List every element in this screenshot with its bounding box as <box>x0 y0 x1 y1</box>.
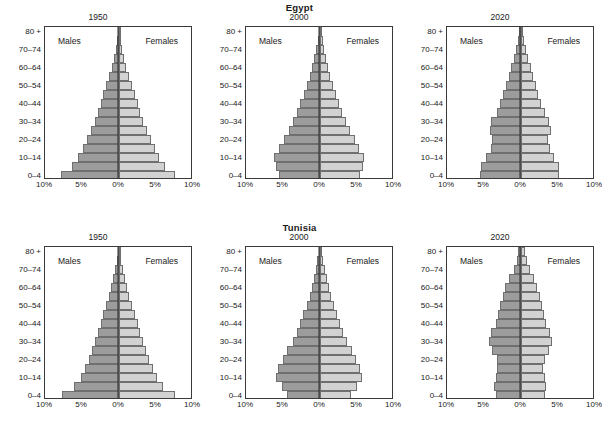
bar-male <box>300 99 320 108</box>
bar-male <box>491 328 521 337</box>
x-axis-tick-label: 10% <box>184 180 200 189</box>
bar-male <box>98 328 119 337</box>
pyramid-panel-egypt-2000: 20000–410–1420–2430–3440–4450–5460–6470–… <box>201 12 397 220</box>
bar-male <box>287 391 320 399</box>
bar-female <box>119 256 121 265</box>
y-axis-tick-label: 10–14 <box>220 152 242 161</box>
bar-female <box>119 72 129 81</box>
bar-female <box>521 274 534 283</box>
bar-male <box>293 337 320 346</box>
bar-female <box>521 99 541 108</box>
pyramid-panel-tunisia-2020: 20200–410–1420–2430–3440–4450–5460–6470–… <box>402 232 598 440</box>
bar-female <box>320 27 322 36</box>
x-axis-tick-label: 10% <box>586 180 602 189</box>
bar-female <box>119 310 135 319</box>
bar-female <box>320 81 333 90</box>
x-axis-tick-label: 5% <box>276 400 288 409</box>
bar-male <box>101 319 120 328</box>
y-axis: 0–410–1420–2430–3440–4450–5460–6470–7480… <box>0 246 41 399</box>
legend-label-females: Females <box>145 36 178 46</box>
bar-male <box>276 373 320 382</box>
bar-male <box>83 144 119 153</box>
bar-male <box>293 117 320 126</box>
bar-female <box>320 337 347 346</box>
y-axis-tick-label: 60–64 <box>421 282 443 291</box>
bar-female <box>119 283 127 292</box>
bar-male <box>279 144 320 153</box>
bar-female <box>119 81 132 90</box>
bar-female <box>119 153 159 162</box>
bar-female <box>119 382 163 391</box>
bar-male <box>101 99 120 108</box>
bar-female <box>320 117 346 126</box>
bar-female <box>119 117 143 126</box>
bar-male <box>61 171 119 179</box>
y-axis-tick-label: 40–44 <box>220 98 242 107</box>
x-axis: 10%5%0%5%10% <box>245 180 393 194</box>
y-axis-tick-label: 60–64 <box>220 62 242 71</box>
y-axis: 0–410–1420–2430–3440–4450–5460–6470–7480… <box>201 26 242 179</box>
y-axis-tick-label: 70–74 <box>19 264 41 273</box>
x-axis-tick-label: 0% <box>112 180 124 189</box>
bar-male <box>503 90 521 99</box>
y-axis-tick-label: 80 + <box>25 246 41 255</box>
bar-female <box>320 382 357 391</box>
panels-row: 19500–410–1420–2430–3440–4450–5460–6470–… <box>0 232 599 440</box>
center-axis-line <box>520 247 521 398</box>
x-axis-tick-label: 5% <box>149 400 161 409</box>
bar-male <box>87 135 119 144</box>
y-axis-tick-label: 50–54 <box>220 80 242 89</box>
bar-male <box>92 346 119 355</box>
x-axis-tick-label: 10% <box>586 400 602 409</box>
bar-female <box>320 346 352 355</box>
center-axis-line <box>520 27 521 178</box>
bar-female <box>320 126 350 135</box>
bar-female <box>119 126 147 135</box>
x-axis: 10%5%0%5%10% <box>245 400 393 414</box>
bar-female <box>119 391 175 399</box>
bar-female <box>119 135 151 144</box>
legend-label-females: Females <box>547 256 580 266</box>
bar-female <box>521 373 545 382</box>
bar-female <box>119 144 155 153</box>
bar-female <box>119 337 143 346</box>
bar-male <box>274 153 320 162</box>
bar-male <box>89 355 119 364</box>
x-axis-tick-label: 5% <box>551 400 563 409</box>
x-axis-tick-label: 5% <box>149 180 161 189</box>
bar-female <box>320 153 364 162</box>
bar-female <box>119 27 121 36</box>
bar-male <box>287 346 320 355</box>
x-axis-tick-label: 10% <box>385 180 401 189</box>
y-axis-tick-label: 50–54 <box>421 300 443 309</box>
bar-female <box>521 162 559 171</box>
y-axis-tick-label: 30–34 <box>421 336 443 345</box>
y-axis-tick-label: 80 + <box>427 246 443 255</box>
bar-female <box>320 265 325 274</box>
y-axis-tick-label: 40–44 <box>421 98 443 107</box>
bar-male <box>85 364 119 373</box>
bar-male <box>282 382 320 391</box>
bar-female <box>320 72 330 81</box>
bar-female <box>320 292 331 301</box>
y-axis-tick-label: 60–64 <box>220 282 242 291</box>
x-axis-tick-label: 10% <box>385 400 401 409</box>
y-axis: 0–410–1420–2430–3440–4450–5460–6470–7480… <box>402 26 443 179</box>
bar-female <box>320 301 334 310</box>
bar-female <box>119 373 157 382</box>
panel-year-title: 2000 <box>201 232 397 242</box>
legend-label-females: Females <box>346 256 379 266</box>
bar-female <box>119 301 132 310</box>
legend-label-females: Females <box>346 36 379 46</box>
bar-female <box>119 90 135 99</box>
pyramid-panel-egypt-2020: 20200–410–1420–2430–3440–4450–5460–6470–… <box>402 12 598 220</box>
x-axis-tick-label: 5% <box>551 180 563 189</box>
x-axis-tick-label: 5% <box>477 400 489 409</box>
bar-male <box>74 382 119 391</box>
plot-area: MalesFemales <box>446 246 594 399</box>
bar-male <box>500 301 521 310</box>
bar-male <box>284 135 320 144</box>
bar-female <box>521 72 533 81</box>
bar-male <box>498 310 521 319</box>
x-axis-tick-label: 10% <box>237 180 253 189</box>
